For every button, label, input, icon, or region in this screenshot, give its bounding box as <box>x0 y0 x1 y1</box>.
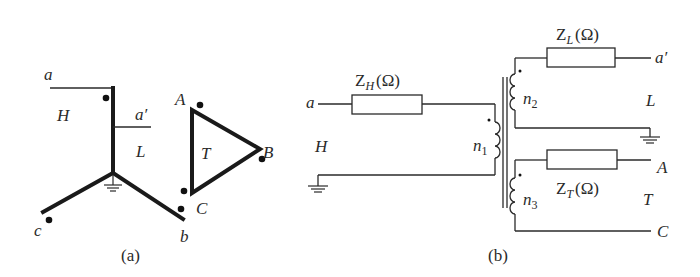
polarity-dot-n1 <box>488 119 491 122</box>
transformer-diagram: a H a′ L c b A B C T (a) <box>0 0 700 277</box>
polarity-dot-n3 <box>519 174 522 177</box>
polarity-dot-c <box>46 217 53 224</box>
ground-icon <box>640 137 660 143</box>
polarity-dot-b <box>178 206 185 213</box>
label-L: L <box>645 91 655 110</box>
label-H: H <box>56 106 71 125</box>
ground-icon <box>308 186 328 192</box>
label-H: H <box>314 137 329 156</box>
branch-b <box>113 173 183 219</box>
figure-a: a H a′ L c b A B C T (a) <box>34 65 274 265</box>
impedance-ZT <box>547 150 617 169</box>
label-a: a <box>44 65 53 84</box>
caption-a: (a) <box>121 246 140 265</box>
label-a: a <box>306 93 315 112</box>
polarity-dot-n2 <box>519 70 522 73</box>
label-C: C <box>657 222 669 241</box>
coil-n1 <box>495 122 500 158</box>
label-a-prime: a′ <box>655 48 668 67</box>
polarity-dot-A <box>197 102 204 109</box>
coil-n3 <box>510 178 515 214</box>
label-ZH: ZH(Ω) <box>355 71 400 93</box>
label-n3: n3 <box>523 190 538 212</box>
label-B: B <box>263 143 274 162</box>
label-n1: n1 <box>473 136 488 158</box>
figure-b: a H ZH(Ω) n1 n2 n3 ZL(Ω) ZT(Ω) a′ L A T … <box>306 25 669 265</box>
label-A: A <box>656 158 668 177</box>
branch-c <box>43 173 113 212</box>
label-C: C <box>196 199 208 218</box>
coil-n2 <box>510 74 515 110</box>
label-a-prime: a′ <box>135 105 148 124</box>
impedance-ZH <box>352 95 422 114</box>
polarity-dot-a <box>103 95 110 102</box>
polarity-dot-C <box>181 188 188 195</box>
label-ZT: ZT(Ω) <box>556 179 599 201</box>
label-T: T <box>643 190 654 209</box>
label-A: A <box>174 90 186 109</box>
label-n2: n2 <box>523 89 538 111</box>
label-b: b <box>180 227 189 246</box>
label-c: c <box>34 221 42 240</box>
label-T: T <box>201 144 212 163</box>
label-ZL: ZL(Ω) <box>556 25 599 47</box>
label-L: L <box>135 142 145 161</box>
impedance-ZL <box>547 48 615 67</box>
caption-b: (b) <box>488 246 508 265</box>
